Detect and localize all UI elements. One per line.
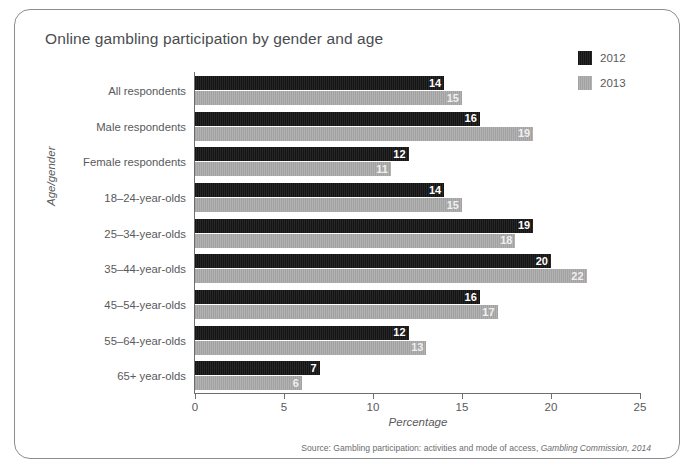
bar-2012[interactable]: 7 xyxy=(195,361,320,375)
x-tick xyxy=(551,393,552,399)
category-label: 25–34-year-olds xyxy=(104,229,186,240)
bar-value-label: 13 xyxy=(411,342,423,353)
x-axis-title: Percentage xyxy=(195,416,641,428)
source-citation: Gambling Commission, 2014 xyxy=(541,443,651,453)
x-tick-label: 5 xyxy=(281,401,287,413)
bar-value-label: 14 xyxy=(429,78,441,89)
bar-2013[interactable]: 22 xyxy=(195,269,587,283)
category-label: Male respondents xyxy=(96,122,186,133)
y-axis-title: Age/gender xyxy=(45,147,57,206)
bar-2013[interactable]: 11 xyxy=(195,162,391,176)
legend-item-2012[interactable]: 2012 xyxy=(578,48,626,68)
bar-2012[interactable]: 14 xyxy=(195,76,444,90)
bar-2013[interactable]: 13 xyxy=(195,341,426,355)
x-tick xyxy=(640,393,641,399)
legend-label-2012: 2012 xyxy=(600,52,626,64)
bar-group: 35–44-year-olds2022 xyxy=(195,254,640,283)
plot-area: All respondents1415Male respondents1619F… xyxy=(195,72,640,393)
x-tick xyxy=(373,393,374,399)
bar-2012[interactable]: 12 xyxy=(195,326,409,340)
bar-value-label: 18 xyxy=(500,235,512,246)
chart-card: Online gambling participation by gender … xyxy=(14,9,680,459)
x-tick xyxy=(462,393,463,399)
bar-group: All respondents1415 xyxy=(195,76,640,105)
bar-value-label: 16 xyxy=(465,113,477,124)
x-axis-line xyxy=(195,393,641,394)
category-label: 65+ year-olds xyxy=(117,371,186,382)
bar-2013[interactable]: 19 xyxy=(195,127,533,141)
bar-value-label: 16 xyxy=(465,292,477,303)
bar-value-label: 22 xyxy=(571,271,583,282)
bar-value-label: 7 xyxy=(310,363,316,374)
bar-2013[interactable]: 15 xyxy=(195,198,462,212)
category-label: 18–24-year-olds xyxy=(104,193,186,204)
category-label: 35–44-year-olds xyxy=(104,264,186,275)
x-tick-label: 0 xyxy=(192,401,198,413)
x-tick-label: 25 xyxy=(634,401,647,413)
bar-2012[interactable]: 19 xyxy=(195,219,533,233)
bar-value-label: 6 xyxy=(293,378,299,389)
x-tick-label: 20 xyxy=(545,401,558,413)
bar-value-label: 14 xyxy=(429,185,441,196)
bar-group: 45–54-year-olds1617 xyxy=(195,290,640,319)
bar-group: Female respondents1211 xyxy=(195,147,640,176)
bar-2013[interactable]: 6 xyxy=(195,376,302,390)
category-label: 45–54-year-olds xyxy=(104,300,186,311)
x-tick xyxy=(195,393,196,399)
bar-2012[interactable]: 14 xyxy=(195,183,444,197)
source-note: Source: Gambling participation: activiti… xyxy=(15,443,651,453)
bar-2013[interactable]: 17 xyxy=(195,305,498,319)
bar-value-label: 17 xyxy=(482,307,494,318)
bar-2013[interactable]: 18 xyxy=(195,234,515,248)
bar-value-label: 15 xyxy=(447,93,459,104)
bar-value-label: 20 xyxy=(536,256,548,267)
chart-title: Online gambling participation by gender … xyxy=(45,30,383,48)
bar-2012[interactable]: 12 xyxy=(195,147,409,161)
x-tick-label: 15 xyxy=(456,401,469,413)
category-label: All respondents xyxy=(108,86,186,97)
bar-2012[interactable]: 16 xyxy=(195,112,480,126)
bar-value-label: 12 xyxy=(393,149,405,160)
bar-2012[interactable]: 20 xyxy=(195,254,551,268)
x-tick-label: 10 xyxy=(367,401,380,413)
bar-group: 25–34-year-olds1918 xyxy=(195,219,640,248)
bar-group: 55–64-year-olds1213 xyxy=(195,326,640,355)
x-tick xyxy=(284,393,285,399)
bar-group: 18–24-year-olds1415 xyxy=(195,183,640,212)
bar-value-label: 11 xyxy=(376,164,388,175)
bar-group: 65+ year-olds76 xyxy=(195,361,640,390)
category-label: 55–64-year-olds xyxy=(104,336,186,347)
y-axis-line xyxy=(194,72,195,394)
category-label: Female respondents xyxy=(83,157,186,168)
source-text: Source: Gambling participation: activiti… xyxy=(301,443,540,453)
bar-value-label: 12 xyxy=(393,327,405,338)
bar-value-label: 19 xyxy=(518,128,530,139)
bar-2013[interactable]: 15 xyxy=(195,91,462,105)
legend-swatch-2012 xyxy=(578,51,592,65)
bar-value-label: 19 xyxy=(518,220,530,231)
bar-2012[interactable]: 16 xyxy=(195,290,480,304)
bar-group: Male respondents1619 xyxy=(195,112,640,141)
bar-value-label: 15 xyxy=(447,200,459,211)
